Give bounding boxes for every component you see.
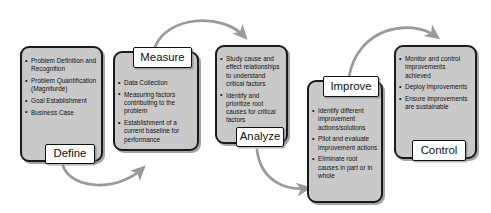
phase-label-control[interactable]: Control <box>412 140 466 161</box>
bullet-item: Establishment of a current baseline for … <box>115 119 193 144</box>
phase-bullets-analyze: Study cause and effect relationships to … <box>217 55 286 128</box>
dmaic-diagram: Problem Definition and Recognition Probl… <box>0 0 491 213</box>
phase-label-measure[interactable]: Measure <box>133 47 192 68</box>
phase-label-define[interactable]: Define <box>45 144 95 164</box>
arrow-define-to-measure <box>63 166 143 185</box>
bullet-item: Identify and prioritize root causes for … <box>217 92 283 125</box>
phase-bullets-define: Problem Definition and Recognition Probl… <box>22 57 101 120</box>
bullet-item: Problem Quantification (Magniturde) <box>22 77 97 94</box>
bullet-item: Study cause and effect relationships to … <box>217 55 283 88</box>
bullet-item: Ensure improvements are sustainable <box>396 95 471 112</box>
bullet-item: Pilot and evaluate improvement actions <box>309 135 378 152</box>
bullet-item: Eliminate root causes in part or in whol… <box>309 155 378 180</box>
arrow-measure-to-analyze <box>155 21 245 47</box>
bullet-item: Problem Definition and Recognition <box>22 57 97 74</box>
bullet-item: Monitor and control improvements achieve… <box>396 55 471 80</box>
phase-bullets-measure: Data Collection Measuring factors contri… <box>115 79 197 147</box>
bullet-item: Measuring factors contributing to the pr… <box>115 91 193 116</box>
phase-label-improve[interactable]: Improve <box>323 76 379 97</box>
phase-label-analyze[interactable]: Analyze <box>236 127 284 147</box>
bullet-item: Goal Establishment <box>22 97 97 105</box>
bullet-item: Identify different improvement actions/s… <box>309 107 378 132</box>
bullet-item: Data Collection <box>115 79 193 87</box>
phase-box-improve[interactable]: Identify different improvement actions/s… <box>307 80 383 203</box>
phase-bullets-control: Monitor and control improvements achieve… <box>396 55 475 115</box>
arrow-analyze-to-improve <box>257 150 308 189</box>
phase-bullets-improve: Identify different improvement actions/s… <box>309 107 381 184</box>
bullet-item: Business Case <box>22 109 97 117</box>
bullet-item: Deploy improvements <box>396 83 471 91</box>
